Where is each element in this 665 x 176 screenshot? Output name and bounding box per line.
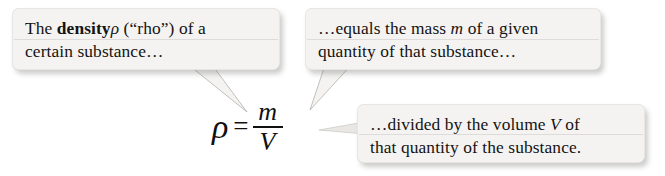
callout-definition-line1-suffix: (“rho”) of a <box>119 18 206 38</box>
callout-definition-line1: The densityρ (“rho”) of a <box>25 17 268 40</box>
density-equation: ρ = m V <box>212 99 283 155</box>
callout-mass-line1: …equals the mass m of a given <box>318 17 589 40</box>
callout-definition-symbol-rho: ρ <box>111 18 119 38</box>
callout-volume-line2: that quantity of the substance. <box>370 136 633 159</box>
equation-fraction: m V <box>253 99 283 155</box>
callout-definition-line1-prefix: The <box>25 18 57 38</box>
callout-mass-symbol-m: m <box>451 18 464 38</box>
callout-mass-line1-prefix: …equals the mass <box>318 18 451 38</box>
figure-canvas: The densityρ (“rho”) of a certain substa… <box>0 0 665 176</box>
callout-definition-line2: certain substance… <box>25 40 268 63</box>
callout-mass: …equals the mass m of a given quantity o… <box>305 8 601 70</box>
callout-volume-symbol-v: V <box>550 114 561 134</box>
callout-definition-term: density <box>57 18 111 38</box>
equation-numerator-m: m <box>256 99 279 126</box>
callout-volume-line1: …divided by the volume V of <box>370 113 633 136</box>
callout-definition: The densityρ (“rho”) of a certain substa… <box>12 8 280 70</box>
callout-volume-line1-suffix: of <box>561 114 580 134</box>
callout-mass-line2: quantity of that substance… <box>318 40 589 63</box>
callout-mass-line1-suffix: of a given <box>463 18 538 38</box>
equation-denominator-v: V <box>258 128 278 155</box>
callout-volume: …divided by the volume V of that quantit… <box>357 104 645 163</box>
callout-volume-line1-prefix: …divided by the volume <box>370 114 550 134</box>
equation-equals-sign: = <box>231 113 252 140</box>
equation-lhs-rho: ρ <box>212 110 231 144</box>
